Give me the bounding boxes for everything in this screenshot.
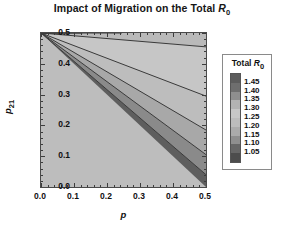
axis-tick	[153, 33, 154, 35]
axis-tick	[204, 169, 206, 170]
axis-tick	[41, 33, 42, 37]
axis-tick	[186, 185, 187, 187]
axis-tick	[147, 33, 148, 35]
x-axis-tick-label: 0.1	[58, 191, 88, 201]
colorbar-tick-label: 1.05	[244, 148, 260, 156]
colorbar-swatch	[231, 109, 240, 118]
y-axis-tick-label: 0.0	[58, 181, 70, 191]
x-axis-tick-label: 0.3	[124, 191, 154, 201]
axis-tick	[41, 95, 45, 96]
colorbar-legend: Total R0 1.451.401.351.301.251.201.151.1…	[222, 54, 272, 170]
axis-tick	[48, 33, 49, 35]
axis-tick	[107, 33, 108, 37]
axis-tick	[41, 156, 45, 157]
contour-canvas	[41, 33, 206, 187]
axis-tick	[41, 138, 43, 139]
axis-tick	[199, 33, 200, 35]
axis-tick	[204, 39, 206, 40]
contour-bands-svg	[41, 33, 206, 187]
colorbar-tick-label: 1.25	[244, 113, 260, 121]
axis-tick	[160, 33, 161, 35]
axis-tick	[180, 185, 181, 187]
axis-tick	[133, 185, 134, 187]
axis-tick	[193, 33, 194, 35]
colorbar-swatch	[231, 74, 240, 83]
colorbar-swatch	[231, 83, 240, 92]
colorbar-swatch	[231, 92, 240, 101]
chart-root: Impact of Migration on the Total R0 0.00…	[0, 0, 284, 234]
axis-tick	[94, 33, 95, 35]
axis-tick	[206, 33, 207, 37]
colorbar-swatch	[231, 100, 240, 109]
axis-tick	[127, 33, 128, 35]
axis-tick	[204, 132, 206, 133]
colorbar-swatch	[231, 136, 240, 145]
axis-tick	[204, 107, 206, 108]
y-axis-title: p21	[2, 92, 16, 122]
x-axis-tick-label: 0.2	[91, 191, 121, 201]
axis-tick	[204, 76, 206, 77]
axis-tick	[107, 183, 108, 187]
axis-tick	[204, 175, 206, 176]
axis-tick	[41, 144, 43, 145]
axis-tick	[41, 162, 43, 163]
axis-tick	[114, 185, 115, 187]
axis-tick	[193, 185, 194, 187]
axis-tick	[166, 185, 167, 187]
colorbar-title-prefix: Total	[232, 58, 254, 68]
axis-tick	[204, 113, 206, 114]
colorbar-tick-label: 1.45	[244, 78, 260, 86]
axis-tick	[41, 76, 43, 77]
axis-tick	[204, 119, 206, 120]
colorbar-gradient	[230, 73, 241, 163]
axis-tick	[140, 33, 141, 37]
axis-tick	[204, 82, 206, 83]
axis-tick	[147, 185, 148, 187]
axis-tick	[41, 64, 45, 65]
axis-tick	[204, 162, 206, 163]
axis-tick	[204, 101, 206, 102]
axis-tick	[94, 185, 95, 187]
y-axis-tick-label: 0.1	[58, 150, 70, 160]
axis-tick	[204, 88, 206, 89]
axis-tick	[100, 33, 101, 35]
axis-tick	[41, 169, 43, 170]
axis-tick	[41, 58, 43, 59]
colorbar-swatch	[231, 118, 240, 127]
axis-tick	[127, 185, 128, 187]
axis-tick	[41, 39, 43, 40]
axis-tick	[74, 33, 75, 37]
axis-tick	[204, 70, 206, 71]
axis-tick	[41, 51, 43, 52]
axis-tick	[199, 185, 200, 187]
axis-tick	[204, 144, 206, 145]
axis-tick	[81, 33, 82, 35]
axis-tick	[48, 185, 49, 187]
chart-title: Impact of Migration on the Total R0	[0, 2, 284, 17]
colorbar-swatch	[231, 127, 240, 136]
axis-tick	[41, 181, 43, 182]
colorbar-tick-label: 1.30	[244, 104, 260, 112]
axis-tick	[160, 185, 161, 187]
x-axis-tick-label: 0.0	[25, 191, 55, 201]
axis-tick	[206, 183, 207, 187]
axis-tick	[87, 185, 88, 187]
y-axis-tick-label: 0.3	[58, 89, 70, 99]
axis-tick	[41, 82, 43, 83]
axis-tick	[87, 33, 88, 35]
x-axis-tick-label: 0.4	[157, 191, 187, 201]
colorbar-swatch	[231, 144, 240, 153]
colorbar-tick-label: 1.20	[244, 122, 260, 130]
axis-tick	[41, 88, 43, 89]
axis-tick	[186, 33, 187, 35]
axis-tick	[204, 58, 206, 59]
contour-plot-area	[40, 32, 207, 188]
axis-tick	[41, 107, 43, 108]
axis-tick	[166, 33, 167, 35]
axis-tick	[202, 156, 206, 157]
colorbar-tick-label: 1.10	[244, 139, 260, 147]
chart-title-prefix: Impact of Migration on the Total	[54, 2, 219, 14]
axis-tick	[140, 183, 141, 187]
axis-tick	[173, 33, 174, 37]
colorbar-title-sub: 0	[260, 62, 264, 71]
